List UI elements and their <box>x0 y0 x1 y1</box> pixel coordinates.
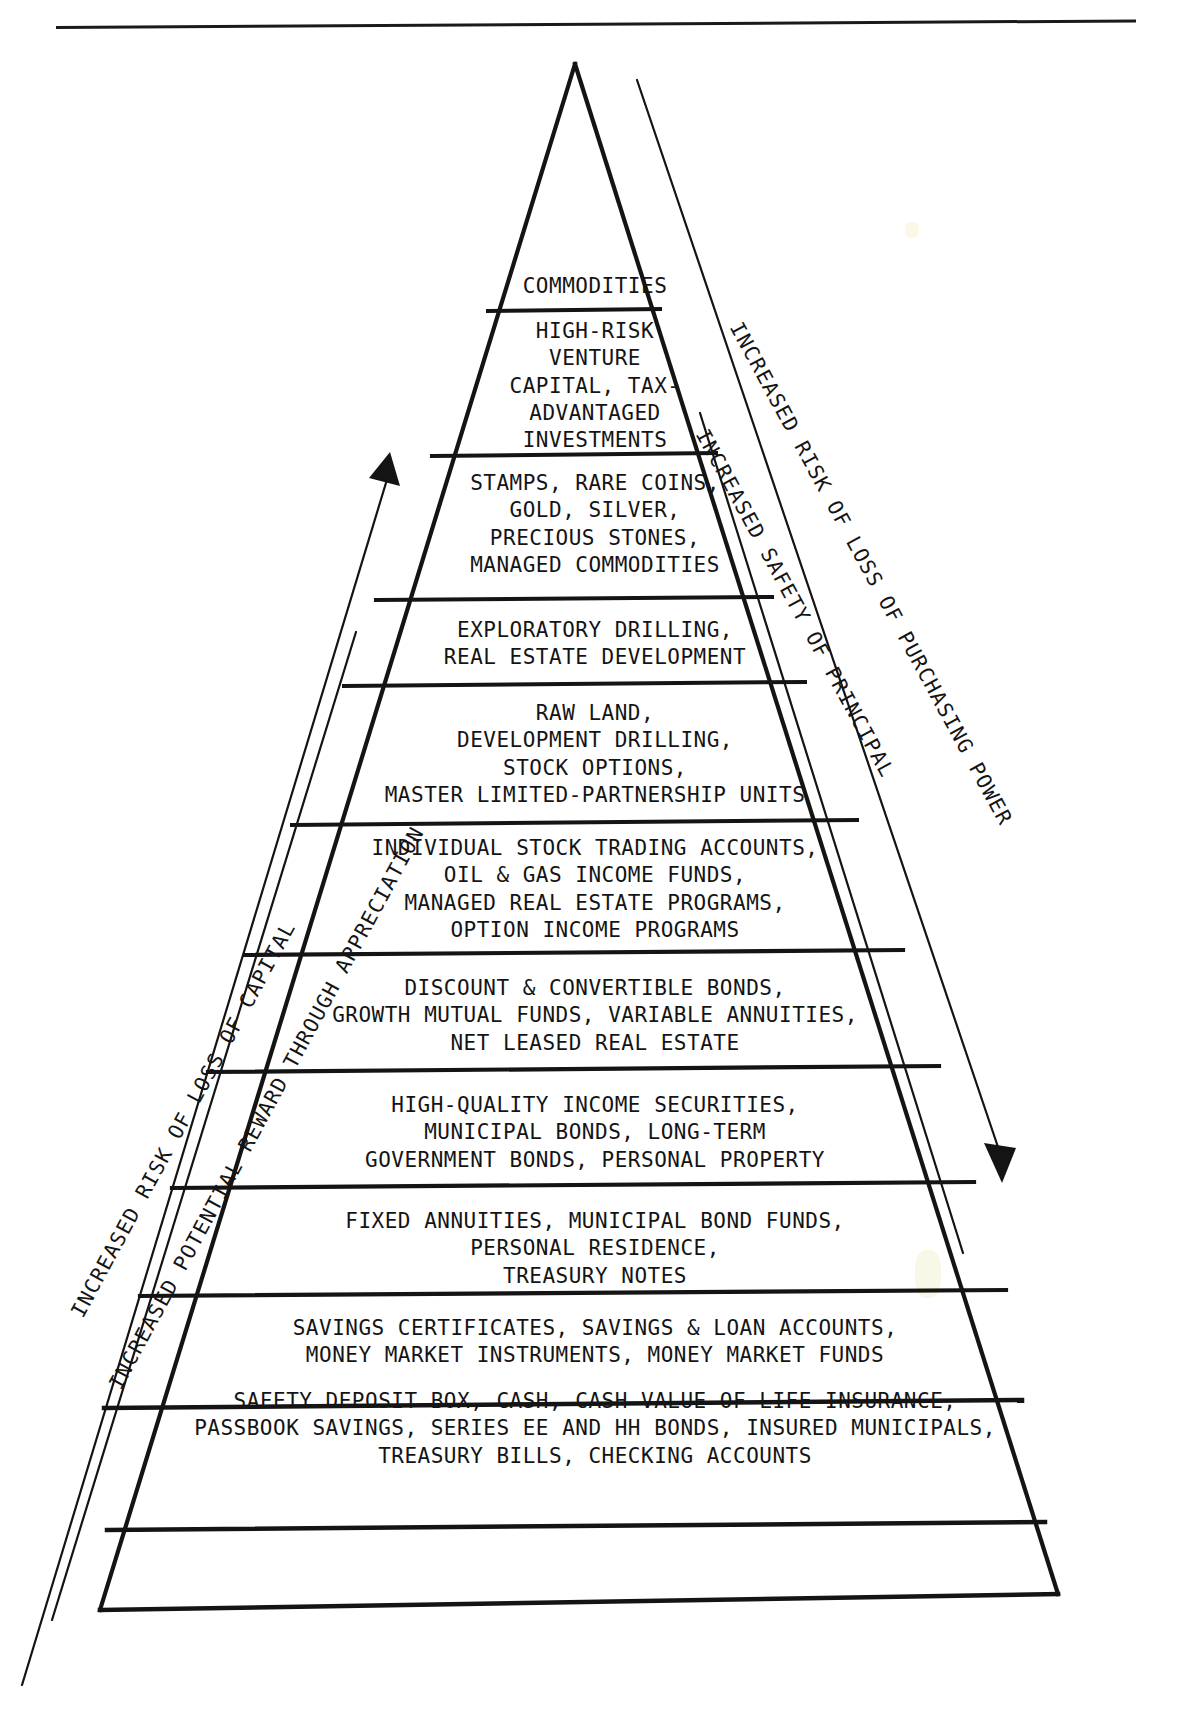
pyramid-base-edge <box>100 1594 1058 1610</box>
tier-divider-4 <box>344 682 805 686</box>
pyramid-tier-5: RAW LAND, DEVELOPMENT DRILLING, STOCK OP… <box>290 700 900 809</box>
pyramid-tier-8: HIGH-QUALITY INCOME SECURITIES, MUNICIPA… <box>175 1092 1015 1174</box>
tier-divider-9 <box>140 1290 1006 1296</box>
tier-divider-7 <box>208 1066 939 1072</box>
pyramid-tier-10: SAVINGS CERTIFICATES, SAVINGS & LOAN ACC… <box>105 1315 1085 1370</box>
pyramid-tier-apex: COMMODITIES <box>430 273 760 300</box>
pyramid-tier-base: SAFETY DEPOSIT BOX, CASH, CASH VALUE OF … <box>70 1388 1120 1470</box>
pyramid-tier-4: EXPLORATORY DRILLING, REAL ESTATE DEVELO… <box>330 617 860 672</box>
tier-divider-11 <box>107 1522 1045 1530</box>
tier-divider-5 <box>292 820 857 825</box>
tier-divider-3 <box>376 597 772 600</box>
diagram-page: COMMODITIES HIGH-RISK VENTURE CAPITAL, T… <box>0 0 1188 1732</box>
pyramid-tier-9: FIXED ANNUITIES, MUNICIPAL BOND FUNDS, P… <box>140 1208 1050 1290</box>
tier-divider-8 <box>172 1182 974 1188</box>
pyramid-tier-2: HIGH-RISK VENTURE CAPITAL, TAX- ADVANTAG… <box>420 318 770 454</box>
tier-divider-1 <box>488 309 660 311</box>
